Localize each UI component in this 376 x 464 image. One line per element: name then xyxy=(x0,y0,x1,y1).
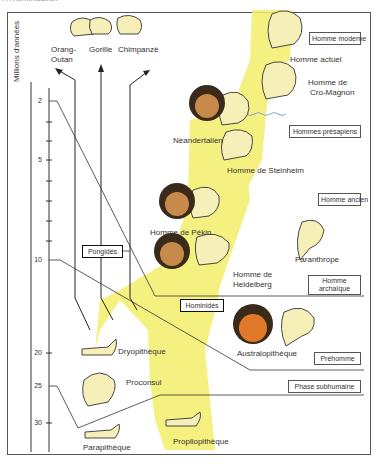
label-cro-magnon-1: Homme de xyxy=(308,78,347,87)
label-gorille: Gorille xyxy=(89,45,112,54)
proconsul-skull xyxy=(83,373,115,406)
category-prehomme: Préhomme xyxy=(314,352,361,365)
australo-face xyxy=(233,304,273,344)
cro-magnon-skull xyxy=(262,62,296,99)
label-chimpanze: Chimpanzé xyxy=(118,45,158,54)
neandertal-face xyxy=(189,85,225,121)
parapitheque-jaw xyxy=(85,424,120,438)
label-australopitheque: Australopithèque xyxy=(237,349,297,358)
label-heidelberg-2: Heidelberg xyxy=(233,280,272,289)
category-hominides: Hominidés xyxy=(180,299,224,312)
axis-label: Millions d'années xyxy=(12,21,21,82)
category-homme-archaique-1: Homme xyxy=(311,277,358,285)
australo-skull xyxy=(281,308,314,346)
label-homme-actuel: Homme actuel xyxy=(290,55,342,64)
label-neandertalien: Néandertalien xyxy=(173,136,223,145)
category-homme-ancien: Homme ancien xyxy=(318,193,361,206)
chimp-skull xyxy=(117,15,142,34)
category-phase-subhumaine: Phase subhumaine xyxy=(288,380,361,393)
label-pekin: Homme de Pékin xyxy=(150,228,211,237)
category-hommes-presapiens: Hommes présapiens xyxy=(289,125,361,138)
label-cro-magnon-2: Cro-Magnon xyxy=(310,88,354,97)
tick-25: 25 xyxy=(28,382,42,389)
homme-actuel-skull xyxy=(268,11,302,48)
category-homme-archaique: Homme archaïque xyxy=(308,275,361,295)
tick-20: 20 xyxy=(28,349,42,356)
tick-10: 10 xyxy=(28,256,42,263)
label-heidelberg-1: Homme de xyxy=(233,270,272,279)
label-dryopitheque: Dryopithèque xyxy=(118,347,166,356)
label-propliopitheque: Propliopithèque xyxy=(173,437,229,446)
tick-5: 5 xyxy=(28,156,42,163)
category-pongides: Pongidés xyxy=(82,245,123,258)
label-proconsul: Proconsul xyxy=(126,378,162,387)
category-homme-archaique-2: archaïque xyxy=(311,285,358,293)
label-orang: Orang- xyxy=(51,45,76,54)
label-paranthrope: Paranthrope xyxy=(295,255,339,264)
dryo-jaw xyxy=(82,339,117,355)
gorilla-skull xyxy=(89,17,111,34)
time-axis xyxy=(31,82,52,452)
tick-2: 2 xyxy=(28,97,42,104)
tick-30: 30 xyxy=(28,419,42,426)
pekin-face xyxy=(159,183,195,219)
label-parapitheque: Parapithèque xyxy=(83,443,131,452)
label-orang-2: Outan xyxy=(51,55,73,64)
heidelberg-face xyxy=(154,233,190,269)
category-homme-moderne: Homme moderne xyxy=(309,32,361,45)
label-steinheim: Homme de Steinheim xyxy=(227,166,304,175)
